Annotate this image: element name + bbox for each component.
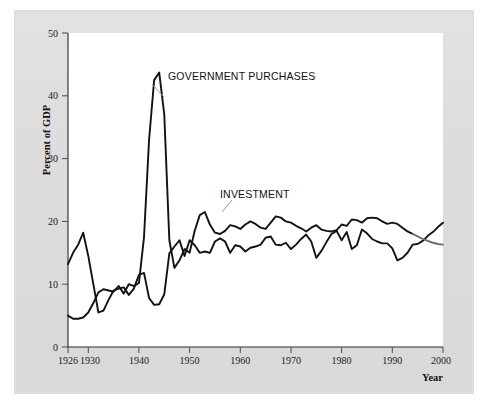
x-tick-label-1960: 1960 [230,355,250,366]
y-tick-label-10: 10 [48,279,58,290]
government-purchases-label: GOVERNMENT PURCHASES [168,70,315,82]
y-tick-label-40: 40 [48,90,58,101]
x-tick-marks [68,347,443,353]
y-axis-title: Percent of GDP [41,104,52,175]
figure-page: 0 10 20 30 40 50 1926 1930 1940 1950 196… [0,0,488,404]
y-tick-label-50: 50 [48,28,58,39]
x-tick-label-1940: 1940 [129,355,149,366]
x-tick-label-2000: 2000 [431,355,451,366]
investment-label: INVESTMENT [220,188,290,200]
y-tick-label-0: 0 [53,342,58,353]
x-tick-label-1980: 1980 [332,355,352,366]
investment-line [68,223,443,313]
x-axis-title: Year [422,372,443,383]
x-tick-label-1950: 1950 [180,355,200,366]
y-tick-label-20: 20 [48,216,58,227]
investment-label-leader [222,200,232,212]
x-tick-label-1970: 1970 [281,355,301,366]
x-tick-label-1990: 1990 [382,355,402,366]
x-tick-label-1930: 1930 [80,355,100,366]
y-tick-marks [62,33,68,347]
chart-svg: 0 10 20 30 40 50 1926 1930 1940 1950 196… [0,0,488,404]
x-tick-label-1926: 1926 [58,355,78,366]
